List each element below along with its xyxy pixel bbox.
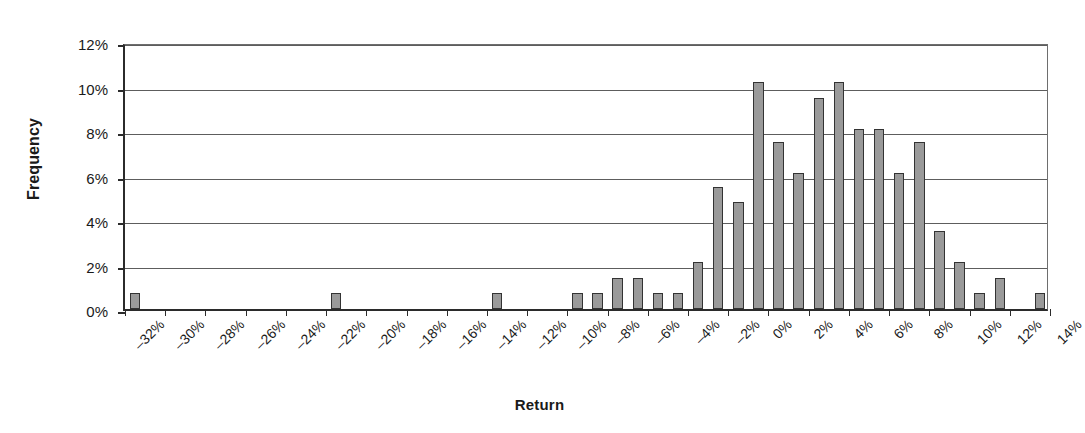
y-tick-label: 4% — [52, 215, 108, 230]
histogram-bar — [995, 278, 1005, 309]
gridline — [125, 179, 1047, 180]
x-tick-label: –16% — [453, 317, 488, 352]
histogram-bar — [733, 202, 743, 309]
x-tick-label: –20% — [373, 317, 408, 352]
x-tick-label: –12% — [534, 317, 569, 352]
histogram-bar — [693, 262, 703, 309]
x-tick-label: 14% — [1054, 317, 1084, 347]
x-tick-label: –22% — [333, 317, 368, 352]
gridline — [125, 268, 1047, 269]
histogram-bar — [954, 262, 964, 309]
x-tick-label: –32% — [131, 317, 166, 352]
x-tick-label: 0% — [770, 317, 794, 341]
x-tick-label: –14% — [493, 317, 528, 352]
histogram-bar — [874, 129, 884, 309]
histogram-bar — [572, 293, 582, 309]
histogram-bar — [331, 293, 341, 309]
x-tick-label: 4% — [851, 317, 875, 341]
x-axis-title: Return — [0, 396, 1079, 413]
histogram-bar — [894, 173, 904, 309]
histogram-bar — [834, 82, 844, 309]
x-tick-label: 6% — [891, 317, 915, 341]
x-tick-mark — [1050, 309, 1051, 316]
histogram-bar — [592, 293, 602, 309]
histogram-bar — [854, 129, 864, 309]
x-tick-label: –4% — [692, 317, 722, 347]
y-tick-mark — [118, 223, 125, 225]
gridline — [125, 223, 1047, 224]
x-axis-tick-labels: –32%–30%–28%–26%–24%–22%–20%–18%–16%–14%… — [123, 311, 1048, 381]
x-tick-label: –24% — [292, 317, 327, 352]
x-tick-label: 12% — [1014, 317, 1044, 347]
y-tick-label: 2% — [52, 259, 108, 274]
gridline — [125, 90, 1047, 91]
histogram-bar — [673, 293, 683, 309]
histogram-bar — [814, 98, 824, 309]
histogram-bar — [130, 293, 140, 309]
histogram-bar — [914, 142, 924, 309]
y-tick-mark — [118, 268, 125, 270]
y-axis-title: Frequency — [25, 89, 43, 229]
y-tick-mark — [118, 90, 125, 92]
histogram-bar — [974, 293, 984, 309]
x-tick-label: –18% — [413, 317, 448, 352]
x-tick-label: 2% — [811, 317, 835, 341]
y-tick-label: 6% — [52, 170, 108, 185]
histogram-bar — [753, 82, 763, 309]
gridline — [125, 134, 1047, 135]
histogram-bar — [1035, 293, 1045, 309]
y-tick-label: 10% — [52, 81, 108, 96]
histogram-bar — [773, 142, 783, 309]
x-tick-label: 10% — [974, 317, 1004, 347]
gridline — [125, 45, 1047, 46]
x-tick-label: –30% — [172, 317, 207, 352]
x-tick-label: –26% — [252, 317, 287, 352]
y-tick-mark — [118, 179, 125, 181]
y-tick-label: 8% — [52, 126, 108, 141]
x-tick-label: –6% — [652, 317, 682, 347]
histogram-bar — [653, 293, 663, 309]
y-tick-mark — [118, 134, 125, 136]
y-tick-label: 12% — [52, 37, 108, 52]
histogram-bar — [492, 293, 502, 309]
y-tick-mark — [118, 45, 125, 47]
histogram-bar — [934, 231, 944, 309]
histogram-bar — [633, 278, 643, 309]
histogram-bar — [612, 278, 622, 309]
x-tick-label: –10% — [574, 317, 609, 352]
x-tick-label: –2% — [732, 317, 762, 347]
plot-area — [123, 44, 1048, 311]
x-tick-label: 8% — [931, 317, 955, 341]
y-axis-tick-labels: 0%2%4%6%8%10%12% — [52, 0, 108, 433]
x-tick-label: –28% — [212, 317, 247, 352]
y-tick-label: 0% — [52, 304, 108, 319]
histogram-bar — [793, 173, 803, 309]
x-tick-label: –8% — [612, 317, 642, 347]
histogram-bar — [713, 187, 723, 309]
